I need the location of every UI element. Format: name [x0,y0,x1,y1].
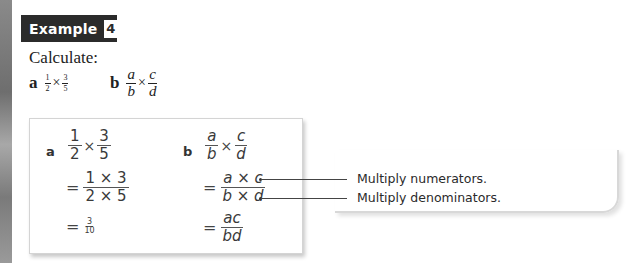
solution-card: a 1 2 × 3 5 = 1 × 3 2 × 5 = 3 10 b a b × [29,118,303,254]
question-b: b a b × c d [110,67,157,99]
fraction: 1 × 3 2 × 5 [83,171,128,204]
times-sign: × [221,138,233,154]
times-sign: × [138,75,146,91]
solution-b-line1: a b × c d [205,129,248,162]
fraction: 1 2 [68,129,82,162]
fraction: ac bd [220,211,243,244]
equals-sign: = [203,218,216,237]
fraction: 3 10 [83,218,95,235]
question-a: a 1 2 × 3 5 [29,73,68,93]
fraction: 3 5 [62,74,68,93]
solution-a-line2: = 1 × 3 2 × 5 [66,171,129,204]
fraction: c d [148,67,158,99]
times-sign: × [84,138,96,154]
leader-line-denominators [261,198,347,199]
callout-numerators: Multiply numerators. [357,171,487,186]
example-label: Example [29,21,97,37]
fraction: c d [234,129,248,162]
fraction: a b [126,67,136,99]
example-number: 4 [104,20,117,38]
page-edge-strip [0,0,12,263]
solution-a-line1: 1 2 × 3 5 [68,129,111,162]
question-letter: b [110,73,119,93]
instruction-text: Calculate: [29,48,98,68]
times-sign: × [53,75,61,91]
solution-b-line3: = ac bd [203,211,243,244]
solution-a-label: a [46,144,55,159]
callout-denominators: Multiply denominators. [357,190,501,205]
equals-sign: = [66,217,79,236]
solution-a-line3: = 3 10 [66,217,96,236]
equals-sign: = [203,178,216,197]
fraction: 1 2 [45,74,51,93]
example-header: Example 4 [21,15,117,42]
solution-b-label: b [183,144,192,159]
fraction: 3 5 [97,129,111,162]
equals-sign: = [66,178,79,197]
solution-b-line2: = a × c b × d [203,171,266,204]
question-letter: a [29,73,38,93]
leader-line-numerators [261,179,347,180]
fraction: a b [205,129,219,162]
